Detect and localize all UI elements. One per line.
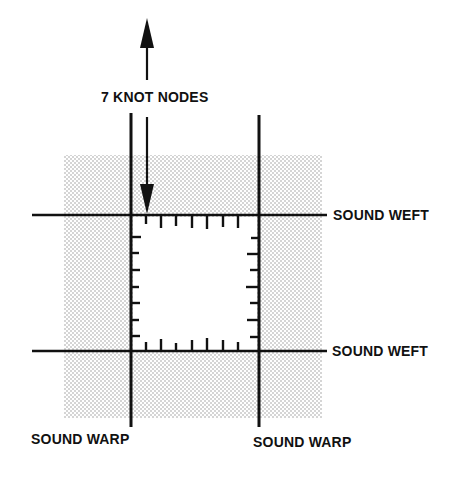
knot-nodes-top <box>146 216 238 229</box>
sound-warp-right-label: SOUND WARP <box>253 434 351 450</box>
knot-nodes-label: 7 KNOT NODES <box>101 89 208 105</box>
knot-diagram: 7 KNOT NODES SOUND WEFT SOUND WEFT SOUND… <box>0 0 473 482</box>
stippled-damaged-area <box>64 155 322 418</box>
sound-weft-top-label: SOUND WEFT <box>333 207 429 223</box>
diagram-canvas <box>0 0 473 482</box>
sound-warp-left-label: SOUND WARP <box>31 431 129 447</box>
knot-nodes-left <box>132 237 141 336</box>
sound-weft-bottom-label: SOUND WEFT <box>332 343 428 359</box>
knot-nodes-right <box>246 238 258 337</box>
up-arrow-icon <box>140 18 154 80</box>
knot-nodes-bottom <box>146 338 238 350</box>
